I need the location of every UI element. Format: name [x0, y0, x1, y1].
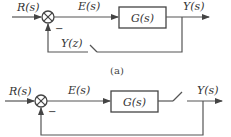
input-label-a: R(s)	[16, 1, 40, 14]
summing-junction-icon	[35, 95, 47, 107]
block-diagrams-canvas: R(s) − E(s) G(s) Y(s) Y(z) (a) R(s)	[0, 0, 231, 137]
output-label-b: Y(s)	[197, 84, 219, 97]
feedback-label-a: Y(z)	[61, 37, 83, 50]
sampler-switch-icon	[90, 45, 97, 52]
block-label-b: G(s)	[123, 96, 146, 109]
output-label-a: Y(s)	[183, 0, 205, 13]
diagram-b: R(s) − E(s) G(s) Y(s)	[5, 84, 222, 135]
summing-junction-icon	[42, 11, 54, 23]
diagram-a: R(s) − E(s) G(s) Y(s) Y(z) (a)	[12, 0, 209, 76]
caption-a: (a)	[110, 65, 124, 76]
block-label-a: G(s)	[131, 12, 154, 25]
sampler-switch-icon	[173, 92, 182, 101]
error-label-b: E(s)	[67, 84, 90, 97]
feedback-sign-b: −	[48, 106, 56, 117]
error-label-a: E(s)	[77, 0, 100, 13]
feedback-sign-a: −	[55, 23, 63, 34]
input-label-b: R(s)	[8, 85, 32, 98]
